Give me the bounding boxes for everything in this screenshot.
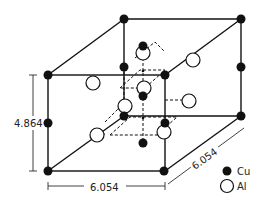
crystal-structure-diagram: 4.864 6.054 6.054 xyxy=(0,0,263,205)
dimension-lines xyxy=(29,75,244,190)
cu-legend-icon xyxy=(223,167,232,176)
cu-legend-label: Cu xyxy=(237,166,250,177)
legend: Cu Al xyxy=(221,166,251,193)
al-legend-icon xyxy=(221,180,234,193)
height-dimension-label: 4.864 xyxy=(14,118,43,129)
width-dimension-label: 6.054 xyxy=(90,182,119,193)
al-legend-label: Al xyxy=(237,181,247,192)
